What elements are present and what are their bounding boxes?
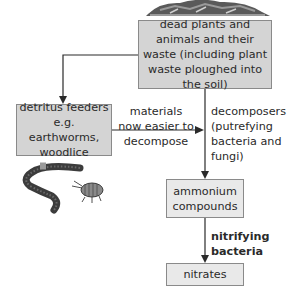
dead-matter-label: dead plants and animals and their waste … [139,17,271,92]
nitrifying-label: nitrifying bacteria [211,229,271,259]
ammonium-label: ammonium compounds [167,184,243,214]
nitrates-label: nitrates [183,267,226,282]
dead-matter-box: dead plants and animals and their waste … [138,20,272,89]
nitrates-box: nitrates [166,263,244,286]
detritus-feeders-label: detritus feeders e.g. earthworms, woodli… [17,100,111,160]
compost-heap-icon [146,0,270,16]
earthworm-woodlouse-icon [26,166,103,210]
decomposers-label: decomposers (putrefying bacteria and fun… [211,104,287,164]
detritus-feeders-box: detritus feeders e.g. earthworms, woodli… [16,104,112,156]
materials-label: materials now easier to decompose [118,104,194,149]
ammonium-box: ammonium compounds [166,179,244,218]
